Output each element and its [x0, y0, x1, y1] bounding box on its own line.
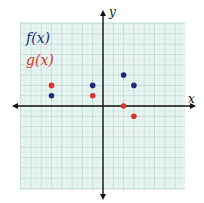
y-arrow-down-icon [100, 194, 106, 200]
g-data-point [49, 83, 55, 89]
x-axis-label: x [188, 92, 195, 106]
g-data-point [131, 114, 137, 120]
x-arrow-left-icon [12, 103, 18, 109]
legend-g: g(x) [26, 52, 54, 68]
g-data-point [121, 103, 127, 109]
f-data-point [90, 83, 96, 89]
f-data-point [121, 72, 127, 78]
f-data-point [49, 93, 55, 99]
legend-f: f(x) [26, 30, 50, 46]
g-data-point [90, 93, 96, 99]
y-axis-label: y [109, 5, 116, 19]
f-data-point [131, 83, 137, 89]
y-arrow-up-icon [100, 10, 106, 16]
